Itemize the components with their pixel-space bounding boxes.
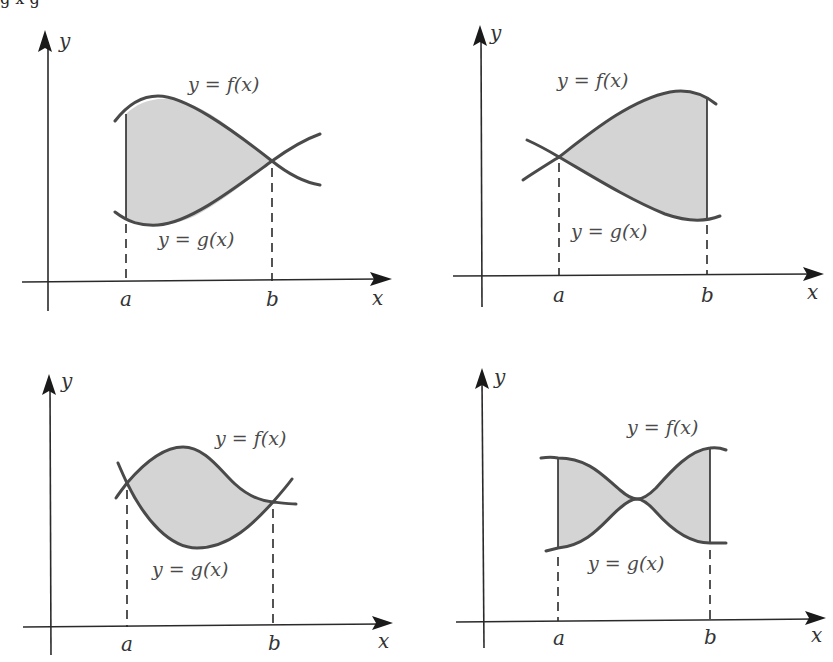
x-axis bbox=[23, 624, 382, 627]
y-axis bbox=[481, 36, 482, 307]
y-axis bbox=[50, 385, 51, 655]
g-label: y = g(x) bbox=[587, 552, 664, 574]
b-label: b bbox=[704, 625, 717, 649]
a-label: a bbox=[553, 626, 565, 650]
x-axis bbox=[22, 279, 380, 282]
x-axis-label: x bbox=[378, 629, 389, 653]
panel-top-left: y x a b y = f(x) y = g(x) bbox=[22, 29, 392, 311]
y-axis-label: y bbox=[489, 21, 502, 45]
x-axis bbox=[453, 274, 818, 276]
x-axis-label: x bbox=[807, 280, 818, 304]
y-axis bbox=[482, 380, 484, 648]
a-label: a bbox=[553, 283, 565, 307]
shaded-region bbox=[559, 91, 707, 220]
a-label: a bbox=[120, 287, 132, 311]
panel-bottom-left: y x a b y = f(x) y = g(x) bbox=[23, 369, 393, 656]
b-label: b bbox=[266, 287, 279, 311]
g-label: y = g(x) bbox=[151, 558, 228, 580]
area-between-curves-figure: g x g y x a b y = f(x) y = g(x) y x a bbox=[0, 0, 833, 662]
y-axis-label: y bbox=[493, 365, 506, 389]
b-label: b bbox=[268, 631, 281, 655]
f-label: y = f(x) bbox=[556, 69, 628, 91]
x-axis-arrow-icon bbox=[372, 616, 393, 630]
g-label: y = g(x) bbox=[570, 220, 647, 242]
shaded-region bbox=[126, 99, 272, 225]
b-label: b bbox=[701, 283, 714, 307]
y-axis-label: y bbox=[60, 369, 73, 393]
f-label: y = f(x) bbox=[187, 73, 259, 95]
f-label: y = f(x) bbox=[626, 416, 698, 438]
a-label: a bbox=[121, 632, 133, 656]
y-axis-label: y bbox=[58, 29, 71, 53]
y-axis-arrow-icon bbox=[473, 25, 487, 46]
panel-bottom-right: y x a b y = f(x) y = g(x) bbox=[456, 365, 826, 650]
figure-caption-partial: g x g bbox=[0, 0, 40, 8]
y-axis-arrow-icon bbox=[42, 374, 56, 395]
f-label: y = f(x) bbox=[214, 427, 286, 449]
g-label: y = g(x) bbox=[157, 228, 234, 250]
x-axis-label: x bbox=[372, 286, 383, 310]
x-axis bbox=[456, 619, 815, 622]
x-axis-label: x bbox=[811, 623, 822, 647]
panel-top-right: y x a b y = f(x) y = g(x) bbox=[453, 21, 824, 307]
y-axis-arrow-icon bbox=[38, 30, 52, 52]
